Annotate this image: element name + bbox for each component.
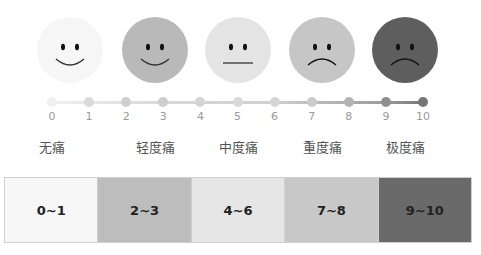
face-moderate-icon (205, 17, 271, 83)
pain-range-box: 0~1 (5, 178, 97, 242)
face-none-icon (37, 17, 103, 83)
scale-number: 9 (374, 110, 398, 123)
pain-level-label: 无痛 (17, 137, 87, 156)
pain-range-box: 4~6 (191, 178, 284, 242)
scale-dot (381, 97, 391, 107)
scale-dot (47, 97, 57, 107)
scale-dot (158, 97, 168, 107)
pain-range-box: 9~10 (378, 178, 471, 242)
scale-number: 4 (188, 110, 212, 123)
scale-dot (195, 97, 205, 107)
pain-range-box: 7~8 (284, 178, 377, 242)
pain-level-label: 中度痛 (203, 137, 273, 156)
pain-range-box: 2~3 (97, 178, 190, 242)
face-mild-icon (122, 17, 188, 83)
scale-number: 5 (226, 110, 250, 123)
face-extreme-icon (372, 17, 438, 83)
scale-number: 1 (77, 110, 101, 123)
scale-dot (344, 97, 354, 107)
scale-number: 8 (337, 110, 361, 123)
scale-number: 10 (411, 110, 435, 123)
scale-number: 7 (300, 110, 324, 123)
pain-level-label: 重度痛 (287, 137, 357, 156)
scale-number: 3 (151, 110, 175, 123)
scale-dot (233, 97, 243, 107)
scale-dot (84, 97, 94, 107)
scale-number: 0 (40, 110, 64, 123)
face-severe-icon (289, 17, 355, 83)
scale-dot (121, 97, 131, 107)
scale-number: 2 (114, 110, 138, 123)
scale-dot (307, 97, 317, 107)
scale-dot (418, 97, 428, 107)
scale-dot (270, 97, 280, 107)
pain-level-label: 极度痛 (370, 137, 440, 156)
pain-range-bar: 0~12~34~67~89~10 (4, 177, 472, 243)
pain-level-label: 轻度痛 (120, 137, 190, 156)
scale-number: 6 (263, 110, 287, 123)
